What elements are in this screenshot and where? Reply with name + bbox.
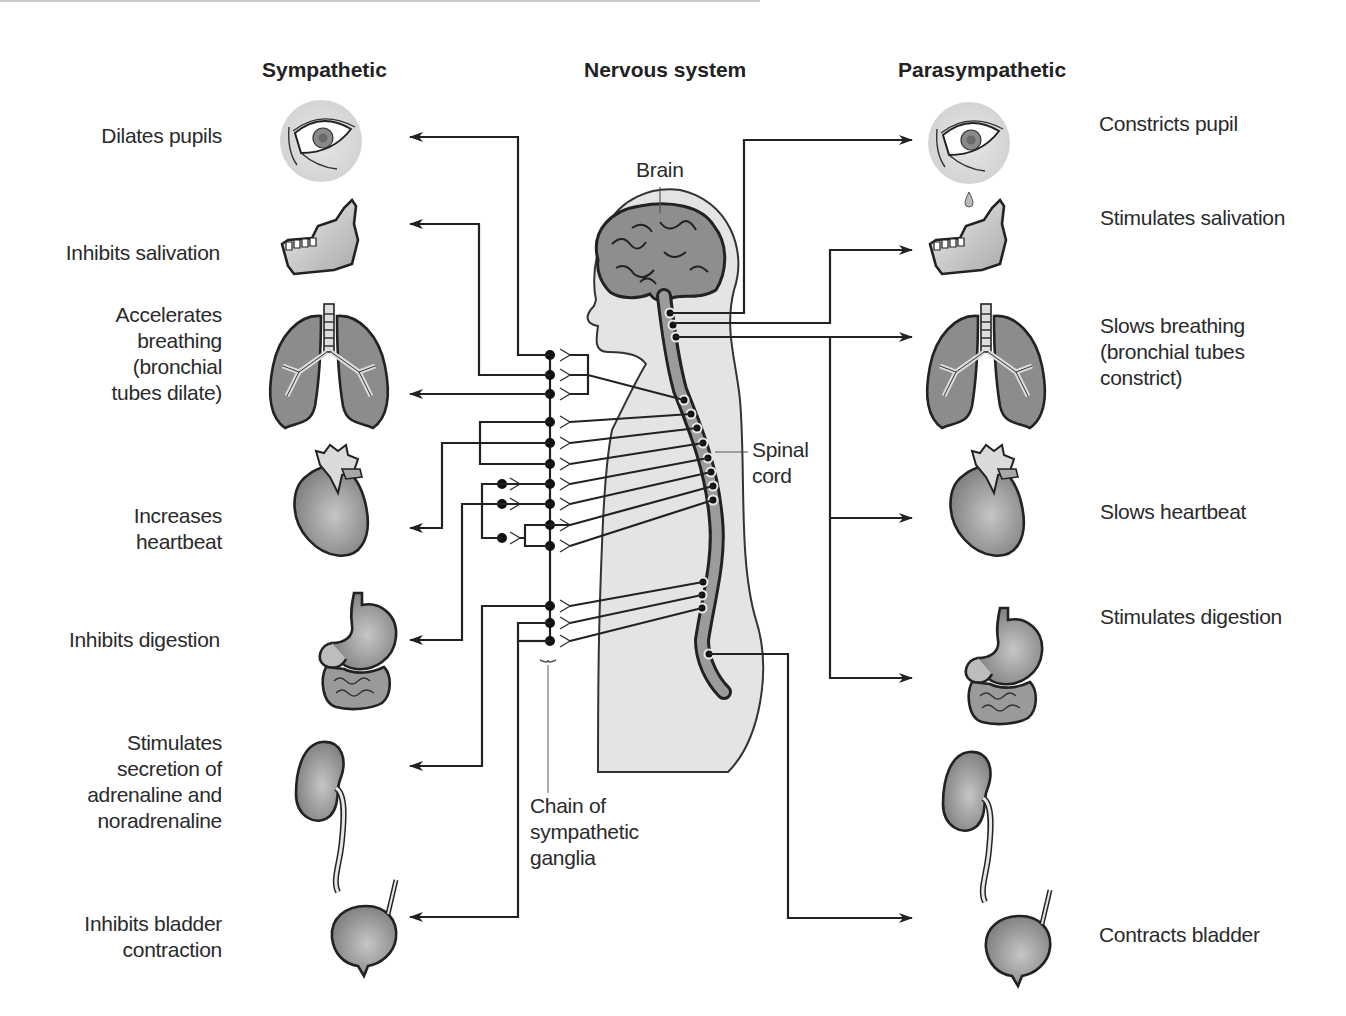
heart-icon-sympathetic (295, 445, 368, 556)
lungs-icon-sympathetic (270, 304, 387, 428)
jaw-icon-parasympathetic (930, 200, 1006, 274)
heart-icon-parasympathetic (951, 445, 1024, 556)
label-spinal-cord: Spinal cord (752, 437, 809, 489)
label-brain: Brain (636, 157, 684, 183)
header-sympathetic: Sympathetic (262, 58, 387, 82)
sympathetic-effect-kidney: Stimulates secretion of adrenaline and n… (87, 730, 222, 834)
header-nervous-system: Nervous system (584, 58, 746, 82)
brain-icon (596, 204, 724, 301)
parasympathetic-effect-jaw: Stimulates salivation (1100, 205, 1285, 231)
parasympathetic-effect-lungs: Slows breathing (bronchial tubes constri… (1100, 313, 1245, 391)
stomach-icon-sympathetic (320, 593, 396, 709)
parasympathetic-effect-eye: Constricts pupil (1099, 111, 1238, 137)
parasympathetic-effect-heart: Slows heartbeat (1100, 499, 1246, 525)
sympathetic-effect-lungs: Accelerates breathing (bronchial tubes d… (111, 302, 222, 406)
header-parasympathetic: Parasympathetic (898, 58, 1066, 82)
bladder-icon-parasympathetic (986, 890, 1050, 986)
sympathetic-effect-heart: Increases heartbeat (134, 503, 222, 555)
kidney-icon-sympathetic (296, 742, 344, 892)
eye-icon-parasympathetic (928, 102, 1010, 184)
jaw-icon-sympathetic (282, 200, 358, 274)
parasympathetic-effect-stomach: Stimulates digestion (1100, 604, 1282, 630)
ganglia-brace (540, 660, 556, 662)
label-ganglia-chain: Chain of sympathetic ganglia (530, 793, 639, 871)
sympathetic-effect-jaw: Inhibits salivation (66, 240, 220, 266)
sympathetic-effect-stomach: Inhibits digestion (69, 627, 220, 653)
lungs-icon-parasympathetic (927, 304, 1044, 428)
bladder-icon-sympathetic (332, 880, 396, 976)
parasympathetic-effect-bladder: Contracts bladder (1099, 922, 1260, 948)
sympathetic-pathways (410, 137, 550, 917)
kidney-icon-parasympathetic (943, 752, 991, 902)
sympathetic-effect-eye: Dilates pupils (101, 123, 222, 149)
stomach-icon-parasympathetic (966, 608, 1042, 724)
sympathetic-effect-bladder: Inhibits bladder contraction (84, 911, 222, 963)
eye-icon-sympathetic (280, 100, 362, 182)
saliva-drop-icon (965, 192, 973, 207)
